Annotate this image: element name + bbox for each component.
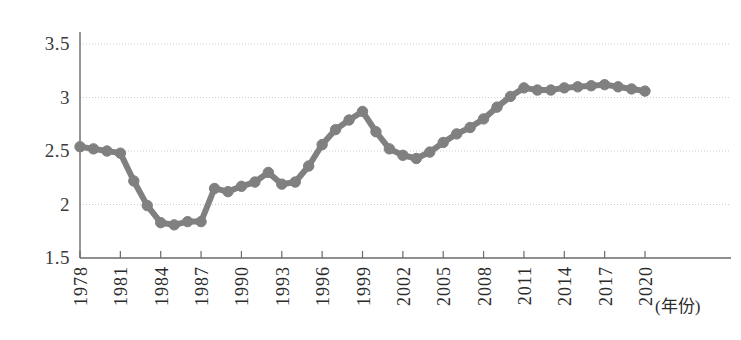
x-axis-tick-label: 1987 [192, 266, 213, 306]
x-axis-tick-label: 1981 [111, 266, 132, 306]
x-axis-tick-label: 1993 [273, 266, 294, 306]
x-axis-tick-label: 1978 [71, 266, 92, 306]
x-axis-tick-label: 2017 [596, 266, 617, 306]
x-axis-tick-label: 2002 [394, 266, 415, 306]
x-axis-tick-label: 1999 [354, 266, 375, 306]
x-axis-tick-label: 2020 [636, 266, 657, 306]
x-axis-tick-label: 2011 [515, 266, 536, 305]
x-axis-title: (年份) [655, 292, 700, 317]
x-axis-tick-label: 1996 [313, 266, 334, 306]
x-axis-tick-label: 1984 [152, 266, 173, 306]
x-axis-tick-label: 2008 [475, 266, 496, 306]
x-axis-tick-label: 2005 [434, 266, 455, 306]
x-axis-tick-label: 2014 [555, 266, 576, 306]
chart-page: 3.532.521.5 1978198119841987199019931996… [0, 0, 741, 340]
x-axis-tick-labels: 1978198119841987199019931996199920022005… [0, 0, 741, 340]
x-axis-tick-label: 1990 [232, 266, 253, 306]
